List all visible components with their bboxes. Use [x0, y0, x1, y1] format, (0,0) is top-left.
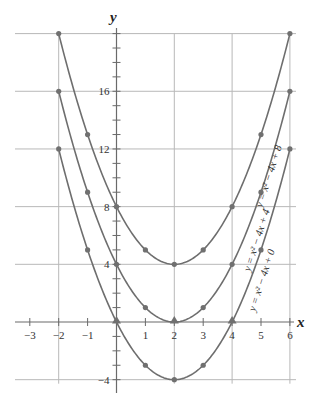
data-point [230, 204, 235, 209]
parabola-chart: −3−2−1123456161284−4 x y y = x² − 4x + 8… [0, 0, 322, 407]
data-point [258, 132, 263, 137]
data-point [56, 146, 61, 151]
x-tick-label: 3 [200, 329, 206, 341]
data-point [287, 31, 292, 36]
data-point [56, 31, 61, 36]
data-point [172, 262, 177, 267]
x-intercept-marker [170, 316, 179, 324]
y-axis-label: y [108, 9, 117, 25]
x-tick-label: −1 [82, 329, 94, 341]
data-point [287, 89, 292, 94]
y-tick-label: 4 [104, 258, 110, 270]
x-tick-label: 5 [258, 329, 264, 341]
y-tick-label: 16 [99, 85, 111, 97]
x-tick-label: 1 [143, 329, 149, 341]
data-point [56, 89, 61, 94]
data-point [172, 377, 177, 382]
data-point [114, 262, 119, 267]
x-tick-label: −2 [53, 329, 65, 341]
x-axis-label: x [296, 314, 305, 330]
data-point [143, 247, 148, 252]
x-tick-label: 2 [172, 329, 178, 341]
data-point [143, 363, 148, 368]
data-point [143, 305, 148, 310]
data-point [85, 247, 90, 252]
curve-label-plus-8: y = x² − 4x + 8 [253, 143, 284, 210]
x-tick-label: 6 [287, 329, 293, 341]
y-tick-label: 12 [99, 143, 110, 155]
y-tick-label: 8 [104, 201, 110, 213]
data-point [85, 190, 90, 195]
y-tick-label: −4 [98, 374, 110, 386]
data-point [85, 132, 90, 137]
x-tick-label: −3 [24, 329, 36, 341]
data-point [201, 247, 206, 252]
data-point [114, 204, 119, 209]
data-point [201, 363, 206, 368]
data-point [201, 305, 206, 310]
data-point [230, 262, 235, 267]
data-point [287, 146, 292, 151]
x-tick-label: 4 [229, 329, 235, 341]
